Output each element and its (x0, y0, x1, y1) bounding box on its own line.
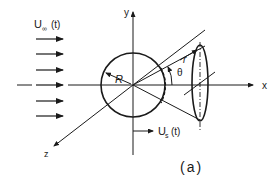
sphere-flow-diagram: U ∞ (t) x y z R r θ U s (t) (a) (0, 0, 279, 184)
figure-caption: (a) (180, 159, 203, 175)
freestream-velocity-label-main: U (34, 18, 42, 30)
radius-label: R (115, 73, 123, 85)
y-axis-label: y (124, 7, 129, 18)
sphere-velocity-label-sub: s (165, 132, 169, 139)
x-axis-label: x (262, 80, 267, 91)
ring-z-line (184, 72, 215, 95)
angle-arc (168, 67, 172, 85)
freestream-velocity-label-sub: ∞ (42, 25, 47, 32)
z-axis-label: z (44, 149, 49, 159)
angle-label: θ (177, 67, 183, 78)
sphere-velocity-label-arg: (t) (171, 126, 180, 137)
freestream-arrows (36, 39, 63, 116)
freestream-velocity-label-arg: (t) (51, 19, 60, 30)
